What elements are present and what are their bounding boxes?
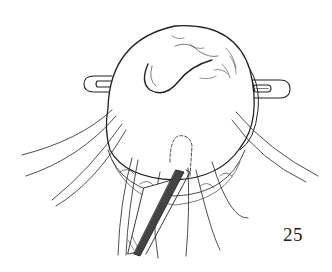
left-retractor-clamp: [84, 76, 112, 92]
figure-number: 25: [283, 224, 303, 246]
surgical-instrument: [128, 170, 190, 256]
organ-dome: [106, 26, 254, 180]
